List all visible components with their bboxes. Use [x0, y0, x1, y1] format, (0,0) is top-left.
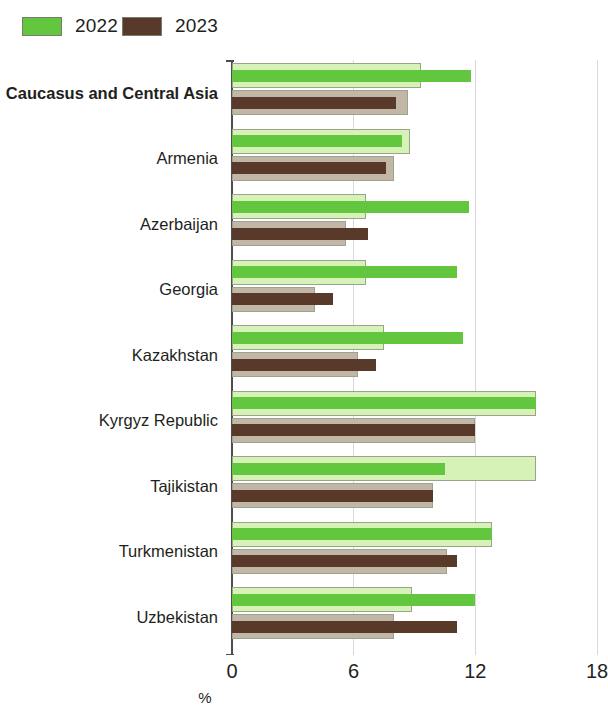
- bar-2022-1: [232, 135, 402, 147]
- bar-2023-6: [232, 490, 433, 502]
- legend-entry-2022: 2022: [22, 13, 118, 39]
- category-label-2: Azerbaijan: [0, 216, 218, 233]
- bar-2023-8: [232, 621, 457, 633]
- gridline-12: [475, 60, 476, 655]
- category-label-8: Uzbekistan: [0, 609, 218, 626]
- category-label-4: Kazakhstan: [0, 347, 218, 364]
- bar-2022-2: [232, 201, 469, 213]
- bar-2022-0: [232, 70, 471, 82]
- bar-2022-8: [232, 594, 475, 606]
- chart-legend: 2022 2023: [0, 0, 607, 52]
- gridline-18: [597, 60, 598, 655]
- bar-chart: Caucasus and Central AsiaArmeniaAzerbaij…: [0, 52, 607, 701]
- category-label-6: Tajikistan: [0, 478, 218, 495]
- category-label-0: Caucasus and Central Asia: [0, 85, 218, 102]
- legend-label-2022: 2022: [75, 15, 118, 37]
- bar-2022-7: [232, 528, 492, 540]
- x-axis-title: %: [0, 689, 607, 706]
- bar-2023-5: [232, 424, 475, 436]
- x-tick-label-12: 12: [464, 660, 486, 683]
- plot-area: Caucasus and Central AsiaArmeniaAzerbaij…: [0, 52, 607, 701]
- bar-2023-3: [232, 293, 333, 305]
- axis-tick-cap-top: [226, 60, 234, 62]
- bar-2022-5: [232, 397, 536, 409]
- bar-2023-4: [232, 359, 376, 371]
- axis-tick-cap-bottom: [226, 654, 234, 656]
- x-tick-label-18: 18: [586, 660, 608, 683]
- bar-2023-2: [232, 228, 368, 240]
- legend-swatch-2023: [122, 17, 162, 36]
- x-tick-label-6: 6: [348, 660, 359, 683]
- bar-2022-6: [232, 463, 445, 475]
- category-label-7: Turkmenistan: [0, 543, 218, 560]
- legend-label-2023: 2023: [175, 15, 218, 37]
- category-label-1: Armenia: [0, 150, 218, 167]
- x-axis-title-text: %: [198, 689, 211, 706]
- category-label-3: Georgia: [0, 281, 218, 298]
- bar-2022-3: [232, 266, 457, 278]
- x-tick-label-0: 0: [226, 660, 237, 683]
- legend-swatch-2022: [22, 17, 62, 36]
- bar-2023-1: [232, 162, 386, 174]
- bar-2023-0: [232, 97, 396, 109]
- bar-2022-4: [232, 332, 463, 344]
- category-label-5: Kyrgyz Republic: [0, 412, 218, 429]
- bar-2023-7: [232, 555, 457, 567]
- legend-entry-2023: 2023: [122, 13, 218, 39]
